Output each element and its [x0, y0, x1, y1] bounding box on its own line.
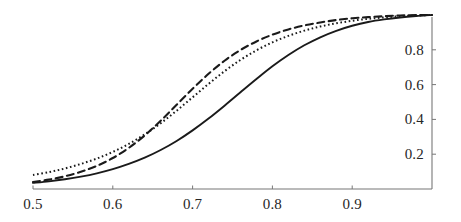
- y-tick-label: 0.2: [398, 147, 424, 162]
- dotted-curve: [33, 15, 432, 175]
- y-tick-label: 0.6: [398, 77, 424, 92]
- y-axis-ticks: [432, 50, 436, 154]
- chart-figure: 0.50.60.70.80.9 0.20.40.60.8: [0, 0, 461, 222]
- y-tick-label: 0.8: [398, 42, 424, 57]
- x-tick-label: 0.7: [183, 197, 202, 212]
- axis-lines: [33, 17, 432, 189]
- x-tick-label: 0.6: [103, 197, 122, 212]
- data-series-group: [33, 15, 432, 183]
- plot-canvas: [0, 0, 461, 222]
- solid-curve: [33, 15, 432, 183]
- y-tick-label: 0.4: [398, 112, 424, 127]
- x-tick-label: 0.9: [343, 197, 362, 212]
- x-tick-label: 0.8: [263, 197, 282, 212]
- x-tick-label: 0.5: [23, 197, 42, 212]
